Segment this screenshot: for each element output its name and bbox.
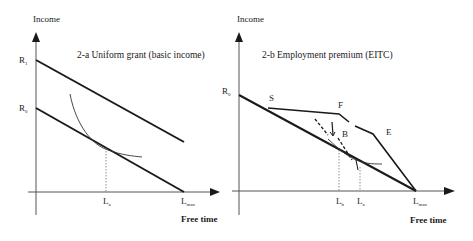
panel-b-point-e: E [386,128,392,137]
panel-b-indifference-curve [328,139,382,164]
panel-a-y-axis-label: Income [33,15,60,24]
panel-b-lmax-label: Lmax [413,197,427,207]
panel-a-r0-label: R0 [19,104,28,114]
diagram-canvas [0,0,473,241]
panel-a-budget-r0 [36,108,184,192]
panel-b-budget-base [239,95,416,191]
panel-b-dashed-arrow-4 [356,160,358,170]
panel-b-la-label: La [357,197,365,207]
panel-b-r0-label: R0 [222,87,231,97]
panel-b-point-f: F [338,101,343,110]
panel-b-lb-label: Lb [336,197,344,207]
panel-a-x-axis-label: Free time [181,215,218,224]
panel-b-title: 2-b Employment premium (EITC) [262,51,393,61]
panel-b-point-b: B [342,130,348,139]
panel-b-dashed-arrow-1 [315,119,328,135]
panel-a-lmax-label: Lmax [181,197,195,207]
panel-a-budget-r1 [36,60,184,142]
panel-a-r1-label: R1 [19,56,28,66]
panel-b-budget-eitc [268,108,349,122]
panel-a-title: 2-a Uniform grant (basic income) [77,51,205,61]
panel-b-dashed-arrow-2 [332,122,333,135]
panel-b-x-axis-label: Free time [410,216,447,225]
panel-a-la-label: La [103,197,111,207]
panel-b-y-axis-label: Income [237,15,264,24]
panel-b-point-s: S [269,94,274,103]
